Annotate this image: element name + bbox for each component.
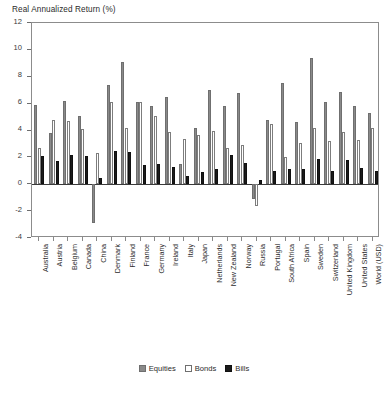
bar-equities	[121, 62, 124, 184]
bar-equities	[136, 102, 139, 184]
y-axis-tick-label: 2	[18, 151, 22, 160]
bar-bills	[230, 155, 233, 185]
x-axis-label-text: United Kingdom	[345, 244, 354, 295]
x-axis-tick	[38, 237, 39, 241]
legend-label-equities: Equities	[149, 365, 176, 373]
bar-bills	[114, 151, 117, 185]
x-axis-tick	[285, 237, 286, 241]
x-axis-label: Sweden	[316, 244, 325, 270]
x-axis-label: Finland	[128, 244, 137, 268]
x-axis-label-text: South Africa	[287, 244, 296, 283]
y-axis-tick-mark	[27, 156, 31, 157]
x-axis-label: New Zealand	[229, 244, 238, 286]
bar-bonds	[139, 102, 142, 184]
bar-bills	[143, 165, 146, 184]
legend-label-bonds: Bonds	[195, 365, 217, 373]
x-axis-tick	[357, 237, 358, 241]
bar-bonds	[154, 116, 157, 185]
x-axis-tick	[183, 237, 184, 241]
legend-swatch-equities	[139, 365, 146, 372]
y-axis-tick-mark	[27, 49, 31, 50]
x-axis-label: Italy	[186, 244, 195, 257]
bar-bonds	[197, 135, 200, 185]
bar-bills	[360, 168, 363, 184]
x-axis-tick	[256, 237, 257, 241]
x-axis-label-text: New Zealand	[229, 244, 238, 286]
x-axis-label-text: Italy	[186, 244, 195, 257]
x-axis-label: Denmark	[113, 244, 122, 273]
x-axis-tick	[343, 237, 344, 241]
x-axis-label: Belgium	[70, 244, 79, 270]
x-axis-label-text: Switzerland	[331, 244, 340, 281]
x-axis-tick	[82, 237, 83, 241]
bar-bonds	[67, 121, 70, 184]
bar-bonds	[255, 184, 258, 206]
chart-root: Real Annualized Return (%) -4-2024681012…	[0, 0, 388, 401]
bar-bonds	[96, 153, 99, 184]
bar-bonds	[168, 132, 171, 184]
bar-equities	[266, 120, 269, 185]
y-axis-tick-label: 6	[18, 97, 22, 106]
x-axis-label: Ireland	[171, 244, 180, 266]
legend-item-bills[interactable]: Bills	[225, 365, 249, 373]
bar-bonds	[183, 139, 186, 185]
x-axis-tick	[299, 237, 300, 241]
x-axis-label-text: Japan	[200, 244, 209, 264]
bar-equities	[107, 85, 110, 184]
x-axis-label: Netherlands	[215, 244, 224, 283]
bar-bills	[41, 156, 44, 184]
chart-title: Real Annualized Return (%)	[12, 5, 116, 14]
y-axis-tick-label: 10	[14, 43, 22, 52]
bar-equities	[324, 102, 327, 184]
x-axis-tick	[53, 237, 54, 241]
bar-bills	[215, 169, 218, 184]
x-axis-label: Canada	[84, 244, 93, 269]
plot-inner	[32, 23, 378, 236]
x-axis-label-text: Austria	[55, 244, 64, 266]
y-axis-tick-label: -2	[15, 205, 22, 214]
bar-bonds	[52, 120, 55, 185]
y-axis-tick-label: 4	[18, 124, 22, 133]
bar-bonds	[125, 128, 128, 184]
bar-bills	[331, 171, 334, 184]
bar-bonds	[313, 128, 316, 184]
x-axis-tick	[328, 237, 329, 241]
y-axis-tick-mark	[27, 22, 31, 23]
x-axis-label-text: China	[99, 244, 108, 263]
legend-swatch-bills	[225, 365, 232, 372]
bar-bills	[302, 169, 305, 184]
x-axis-label: Austria	[55, 244, 64, 266]
legend-item-bonds[interactable]: Bonds	[185, 365, 217, 373]
bar-equities	[194, 128, 197, 184]
x-axis-label: Norway	[244, 244, 253, 268]
bar-bills	[99, 178, 102, 185]
bar-equities	[353, 106, 356, 184]
x-axis-label-text: Portugal	[273, 244, 282, 271]
bar-equities	[237, 93, 240, 184]
y-axis-tick-mark	[27, 237, 31, 238]
x-axis-label: Japan	[200, 244, 209, 264]
x-axis-label: Russia	[258, 244, 267, 266]
zero-baseline	[32, 184, 378, 185]
bar-bonds	[110, 102, 113, 184]
x-axis-label: United Kingdom	[345, 244, 354, 295]
bar-bills	[172, 167, 175, 184]
x-axis-label: China	[99, 244, 108, 263]
y-axis-tick-label: 12	[14, 17, 22, 26]
bar-bills	[186, 176, 189, 184]
bar-equities	[63, 101, 66, 184]
bar-bills	[375, 171, 378, 184]
y-axis-tick-mark	[27, 130, 31, 131]
bar-bills	[244, 163, 247, 185]
bar-bonds	[226, 148, 229, 184]
x-axis-tick	[67, 237, 68, 241]
x-axis-label-text: Russia	[258, 244, 267, 266]
bar-bonds	[284, 157, 287, 184]
legend-item-equities[interactable]: Equities	[139, 365, 176, 373]
bar-bonds	[270, 124, 273, 184]
bar-bills	[346, 160, 349, 184]
bar-bonds	[299, 143, 302, 185]
bar-bills	[273, 171, 276, 184]
x-axis-label-text: Finland	[128, 244, 137, 268]
x-axis-label-text: Germany	[157, 244, 166, 274]
